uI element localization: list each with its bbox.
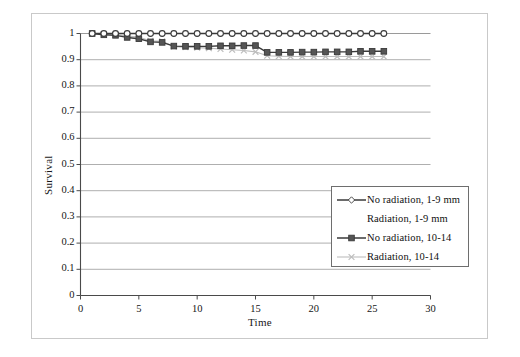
legend-marker-icon (336, 193, 367, 207)
x-tick-label: 25 (352, 303, 392, 314)
data-series-layer (89, 31, 386, 60)
legend-marker-icon (336, 231, 367, 245)
series-0 (89, 31, 386, 37)
legend-item-3[interactable]: Radiation, 10-14 (332, 247, 468, 266)
y-tick-label: 0.7 (37, 105, 75, 116)
y-tick-label: 0.6 (37, 131, 75, 142)
y-tick-label: 1 (37, 27, 75, 38)
legend-item-1[interactable]: Radiation, 1-9 mm (332, 209, 468, 228)
y-tick-label: 0.1 (37, 262, 75, 273)
legend-item-label: Radiation, 1-9 mm (367, 213, 448, 224)
y-axis-title: Survival (42, 155, 54, 195)
legend-item-label: No radiation, 1-9 mm (367, 194, 460, 205)
x-tick-label: 30 (411, 303, 451, 314)
legend-item-0[interactable]: No radiation, 1-9 mm (332, 190, 468, 209)
x-tick-label: 0 (61, 303, 101, 314)
series-2 (89, 31, 386, 55)
legend-item-2[interactable]: No radiation, 10-14 (332, 228, 468, 247)
x-tick-label: 10 (177, 303, 217, 314)
y-tick-label: 0.9 (37, 53, 75, 64)
x-tick-label: 15 (236, 303, 276, 314)
legend-marker-icon (336, 250, 367, 264)
y-tick-label: 0.2 (37, 236, 75, 247)
y-tick-label: 0.3 (37, 210, 75, 221)
y-tick-label: 0 (37, 289, 75, 300)
legend-item-label: No radiation, 10-14 (367, 232, 451, 243)
chart-figure: 00.10.20.30.40.50.60.70.80.91 0510152025… (0, 0, 520, 357)
x-tick-label: 5 (119, 303, 159, 314)
y-tick-label: 0.8 (37, 79, 75, 90)
legend-item-label: Radiation, 10-14 (367, 251, 439, 262)
x-axis-title: Time (0, 316, 520, 328)
x-tick-label: 20 (294, 303, 334, 314)
legend-marker-icon (336, 212, 367, 226)
chart-legend: No radiation, 1-9 mmRadiation, 1-9 mmNo … (331, 186, 469, 267)
